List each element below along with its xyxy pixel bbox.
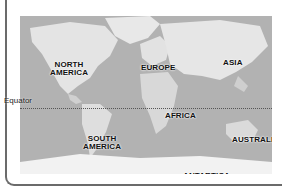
label-antarctica: ANTARTICA bbox=[183, 172, 230, 174]
equator-line bbox=[20, 108, 272, 109]
world-map: NORTH AMERICA EUROPE ASIA AFRICA SOUTH A… bbox=[20, 16, 272, 174]
label-south-america: SOUTH AMERICA bbox=[83, 135, 121, 151]
equator-label: Equator bbox=[4, 96, 32, 105]
label-africa: AFRICA bbox=[165, 112, 196, 120]
label-asia: ASIA bbox=[223, 59, 243, 67]
label-line: AMERICA bbox=[50, 69, 88, 77]
label-europe: EUROPE bbox=[141, 64, 175, 72]
label-north-america: NORTH AMERICA bbox=[50, 61, 88, 77]
map-graphic bbox=[20, 16, 272, 174]
label-australia: AUSTRALIA bbox=[232, 136, 272, 144]
label-line: AMERICA bbox=[83, 143, 121, 151]
